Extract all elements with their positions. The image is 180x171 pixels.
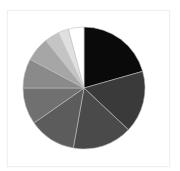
pie-chart <box>0 0 180 171</box>
